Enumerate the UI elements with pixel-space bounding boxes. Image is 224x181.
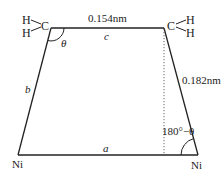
right-bond-h-top — [176, 20, 186, 24]
right-bond-h-bottom — [176, 27, 186, 31]
trapezoid-diagram: H H C C H H 0.154nm c b 0.182nm a θ 180°… — [0, 0, 224, 181]
edge-left-b — [18, 28, 51, 155]
angle-180-minus-theta-label: 180°−θ — [162, 125, 194, 137]
ni-left-label: Ni — [12, 158, 23, 170]
right-carbon: C — [167, 19, 175, 33]
right-h-top: H — [186, 13, 195, 27]
left-bond-h-top — [31, 20, 41, 24]
left-h-top: H — [22, 13, 31, 27]
ni-right-label: Ni — [191, 159, 202, 171]
bottom-edge-symbol: a — [103, 142, 109, 154]
angle-theta-label: θ — [61, 37, 67, 49]
left-edge-symbol: b — [25, 83, 31, 95]
top-edge-symbol: c — [104, 30, 109, 42]
left-carbon: C — [41, 19, 49, 33]
right-h-bottom: H — [186, 26, 195, 40]
angle-arc-180-minus-theta — [181, 139, 194, 155]
left-bond-h-bottom — [31, 27, 41, 31]
top-length-label: 0.154nm — [88, 12, 127, 24]
left-h-bottom: H — [22, 26, 31, 40]
right-length-label: 0.182nm — [182, 74, 221, 86]
